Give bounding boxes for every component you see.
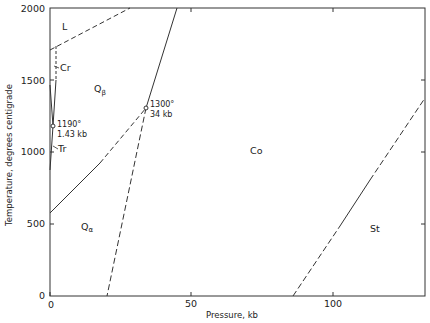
region-quartz-alpha: Qα <box>81 221 93 234</box>
annotation-1190-pressure: 1.43 kb <box>57 130 87 139</box>
coesite-stishovite-boundary-upper <box>370 98 425 180</box>
label-cristobalite: Cr <box>60 62 71 73</box>
y-axis-title: Temperature, degrees centigrade <box>4 84 14 227</box>
quartz-alpha-beta-boundary-dashed <box>100 108 146 163</box>
annotation-1300-pressure: 34 kb <box>150 110 172 119</box>
quartz-alpha-beta-boundary <box>50 163 100 213</box>
region-liquid: L <box>62 21 68 32</box>
y-tick-2000: 2000 <box>21 3 45 14</box>
region-coesite: Co <box>250 145 263 156</box>
y-tick-0: 0 <box>39 290 45 301</box>
x-axis-title: Pressure, kb <box>206 310 258 320</box>
phase-diagram: 0 50 100 0 500 1000 1500 2000 Pressure, … <box>0 0 430 323</box>
triple-point-1300 <box>144 106 148 110</box>
y-tick-1500: 1500 <box>21 75 45 86</box>
y-tick-1000: 1000 <box>21 146 45 157</box>
region-stishovite: St <box>370 223 380 234</box>
coesite-stishovite-boundary <box>340 180 370 226</box>
x-tick-0: 0 <box>48 299 54 310</box>
x-tick-100: 100 <box>324 298 342 309</box>
axis-ticks <box>50 8 425 296</box>
coesite-stishovite-boundary-dashed <box>293 226 340 296</box>
triple-point-1190 <box>51 124 55 128</box>
x-tick-50: 50 <box>185 298 197 309</box>
plot-frame <box>50 8 425 296</box>
annotation-1300-temp: 1300° <box>150 100 174 109</box>
annotation-1190-temp: 1190° <box>57 120 81 129</box>
quartz-coesite-boundary-lower <box>107 108 146 296</box>
quartz-coesite-boundary-upper <box>146 8 177 108</box>
region-quartz-beta: Qβ <box>94 83 106 97</box>
label-tridymite: Tr <box>57 143 66 154</box>
y-tick-500: 500 <box>27 218 45 229</box>
cristobalite-boundary <box>53 80 56 126</box>
